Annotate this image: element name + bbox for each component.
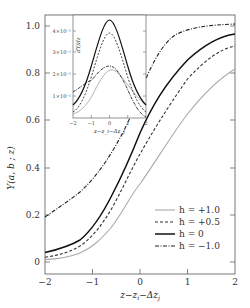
x-axis-label: z−zi−Δzj <box>119 290 160 302</box>
inset-y-tick-label: 3×10⁻¹ <box>53 49 71 55</box>
inset-frame <box>73 15 146 118</box>
x-tick-label: 2 <box>232 277 238 287</box>
legend-label: h = +0.5 <box>179 217 220 227</box>
inset-x-tick-label: −2 <box>69 120 76 126</box>
y-tick-label: 0.6 <box>26 115 41 125</box>
x-tick-label: −1 <box>86 277 99 287</box>
inset-x-tick-label: −1 <box>88 120 95 126</box>
legend-label: h = 0 <box>179 229 204 239</box>
legend-label: h = +1.0 <box>179 205 220 215</box>
x-tick-label: 1 <box>185 277 191 287</box>
inset-x-axis-label: z−z_i−Δz_j <box>93 128 125 135</box>
x-axis <box>93 269 188 274</box>
y-tick-label: 1.0 <box>26 21 41 31</box>
y-tick-label: 0.2 <box>26 210 40 220</box>
x-tick-label: 0 <box>137 277 143 287</box>
x-tick-label: −2 <box>38 277 51 287</box>
inset-x-tick-label: 1 <box>126 120 129 126</box>
inset-x-tick-label: 2 <box>144 120 147 126</box>
inset-y-tick-label: 2×10⁻¹ <box>53 71 71 77</box>
legend-label: h = −1.0 <box>179 241 220 251</box>
legend: h = +1.0 h = +0.5 h = 0 h = −1.0 <box>155 205 220 251</box>
inset-x-tick-label: 0 <box>108 120 111 126</box>
y-axis-label: Y(a, b ; z) <box>6 146 16 190</box>
inset-y-tick-label: 4×10⁻¹ <box>53 28 71 34</box>
inset-plot: 1×10⁻¹ 2×10⁻¹ 3×10⁻¹ 4×10⁻¹ −2 −1 0 1 2 … <box>53 15 148 135</box>
y-tick-label: 0 <box>34 257 40 267</box>
chart-figure: 0 0.2 0.4 0.6 0.8 1.0 −2 −1 0 1 2 z−zi−Δ… <box>0 0 250 308</box>
y-tick-label: 0.4 <box>26 163 41 173</box>
inset-y-axis-label: dY/dz <box>75 37 81 53</box>
y-tick-label: 0.8 <box>26 68 41 78</box>
inset-y-tick-label: 1×10⁻¹ <box>53 93 71 99</box>
